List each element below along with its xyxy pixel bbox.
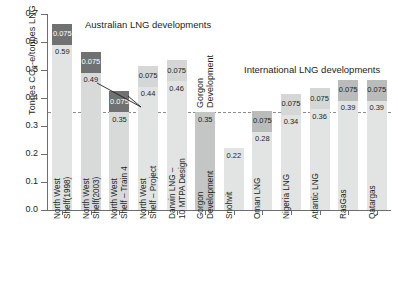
bar-base-value-label: 0.39 <box>338 104 358 112</box>
y-axis-tick <box>41 42 47 43</box>
bar-base-value-label: 0.39 <box>367 104 387 112</box>
international-group-title: International LNG developments <box>244 64 380 75</box>
x-axis-label-north-west-shelf-2003: North West Shelf(2003) <box>82 133 101 219</box>
y-axis-tick <box>41 182 47 183</box>
y-axis-tick-label: 0.1 <box>0 177 38 186</box>
bar-cap-value-label: 0.075 <box>52 30 72 38</box>
bar-segment-cap: 0.075 <box>281 94 301 115</box>
bar-base-value-label: 0.35 <box>109 116 129 124</box>
bar-cap-value-label: 0.075 <box>310 95 330 103</box>
bar-segment-cap: 0.075 <box>52 24 72 45</box>
bar-segment-cap: 0.075 <box>252 111 272 132</box>
x-axis-label-rasgas: RasGas <box>339 133 349 219</box>
bar-segment-cap: 0.075 <box>338 80 358 101</box>
y-axis-tick <box>41 210 47 211</box>
bar-cap-value-label: 0.075 <box>81 58 101 66</box>
y-axis-tick-label: 0.0 <box>0 205 38 214</box>
bar-base-value-label: 0.59 <box>52 48 72 56</box>
bar-segment-cap: 0.075 <box>81 52 101 73</box>
x-axis-label-north-west-shelf-1998: North West Shelf(1998) <box>53 133 72 219</box>
x-axis-label-darwin-lng-10-mtpa-design: Darwin LNG – 10 MTPA Design <box>168 133 187 219</box>
lng-emissions-chart: Tonnes CO2-e/tonnes LNG 0.00.10.20.30.40… <box>0 0 398 303</box>
bar-segment-cap: 0.075 <box>167 60 187 81</box>
x-axis-label-north-west-shelf-train-4: North West Shelf – Train 4 <box>110 133 129 219</box>
y-axis-tick-label: 0.2 <box>0 149 38 158</box>
bar-cap-value-label: 0.075 <box>138 72 158 80</box>
y-axis-tick-label: 0.4 <box>0 93 38 102</box>
x-axis-label-nigeria-lng: Nigeria LNG <box>282 133 292 219</box>
y-axis-tick <box>41 14 47 15</box>
y-axis-tick-label: 0.5 <box>0 65 38 74</box>
bar-base-value-label: 0.46 <box>167 85 187 93</box>
australian-group-title: Australian LNG developments <box>85 19 211 30</box>
bar-base-value-label: 0.44 <box>138 90 158 98</box>
bar-cap-value-label: 0.075 <box>281 100 301 108</box>
bar-segment-cap: 0.075 <box>310 88 330 109</box>
bar-cap-value-label: 0.075 <box>109 98 129 106</box>
y-axis-tick <box>41 126 47 127</box>
bar-base-value-label: 0.36 <box>310 113 330 121</box>
bar-base-value-label: 0.49 <box>81 76 101 84</box>
x-axis-label-qatargas: Qatargas <box>368 133 378 219</box>
bar-cap-value-label: 0.075 <box>167 67 187 75</box>
bar-segment-cap: 0.075 <box>367 80 387 101</box>
x-axis-label-oman-lng: Oman LNG <box>253 133 263 219</box>
y-axis-tick-label: 0.7 <box>0 9 38 18</box>
bar-cap-value-label: 0.075 <box>338 86 358 94</box>
bar-segment-cap: 0.075 <box>138 66 158 87</box>
y-axis-tick-label: 0.6 <box>0 37 38 46</box>
bar-base-value-label: 0.34 <box>281 118 301 126</box>
y-axis-tick-label: 0.3 <box>0 121 38 130</box>
y-axis-tick <box>41 154 47 155</box>
bar-cap-value-label: 0.075 <box>367 86 387 94</box>
y-axis-tick <box>41 70 47 71</box>
bar-base-value-label: 0.35 <box>195 116 215 124</box>
y-axis-tick <box>41 98 47 99</box>
x-axis-label-gorgon-development: Gorgon Development <box>196 133 215 219</box>
bar-segment-cap: 0.075 <box>109 91 129 112</box>
x-axis-label-atlantic-lng: Atlantic LNG <box>311 133 321 219</box>
x-axis-label-snohvit: Snohvit <box>225 133 235 219</box>
x-axis-label-north-west-shelf-project: North West Shelf – Project <box>139 133 158 219</box>
bar-cap-value-label: 0.075 <box>252 117 272 125</box>
